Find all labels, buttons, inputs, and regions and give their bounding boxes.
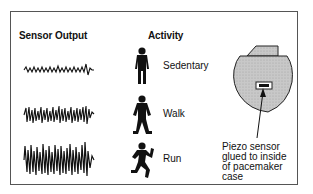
run-waveform-icon xyxy=(24,142,94,178)
sensor-output-header: Sensor Output xyxy=(19,30,87,41)
walking-person-icon xyxy=(131,95,153,135)
run-label: Run xyxy=(163,153,181,164)
standing-person-icon xyxy=(133,47,151,85)
note-line-4: case xyxy=(222,172,287,182)
sedentary-label: Sedentary xyxy=(163,60,209,71)
activity-header: Activity xyxy=(148,30,183,41)
sedentary-waveform-icon xyxy=(24,64,94,76)
walk-waveform-icon xyxy=(24,104,94,126)
walk-label: Walk xyxy=(163,108,185,119)
sensor-pointer-arrow-icon xyxy=(255,88,267,140)
piezo-sensor-note: Piezo sensor glued to inside of pacemake… xyxy=(222,142,287,182)
running-person-icon xyxy=(129,142,155,180)
